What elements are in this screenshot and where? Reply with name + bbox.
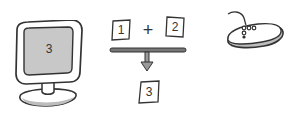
operand-left-card: 1 [110, 19, 132, 41]
monitor-illustration: 3 [12, 20, 84, 110]
operand-right-card: 2 [164, 16, 186, 38]
monitor-screen-value: 3 [42, 42, 56, 56]
result-card: 3 [137, 80, 161, 104]
operand-left-value: 1 [110, 23, 132, 37]
plus-operator: + [140, 20, 156, 40]
sum-bar-arrow [109, 47, 189, 77]
mouse-illustration [224, 8, 286, 50]
result-value: 3 [137, 85, 161, 99]
mouse-icon [224, 8, 286, 50]
arrow-down-icon [109, 47, 189, 77]
operand-right-value: 2 [164, 20, 186, 34]
monitor-icon [12, 20, 84, 110]
